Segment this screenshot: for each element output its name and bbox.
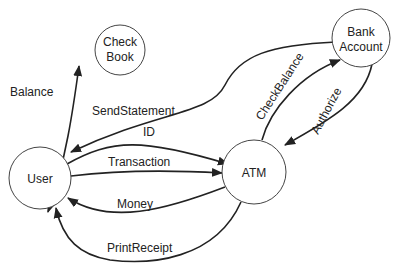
label-printreceipt: PrintReceipt [107, 241, 173, 255]
edge-transaction [71, 171, 222, 176]
node-user: User [9, 147, 71, 209]
node-user-label: User [27, 172, 52, 186]
node-bank-line1: Bank [347, 25, 375, 39]
label-money: Money [117, 197, 153, 211]
node-checkbook: Check Book [95, 25, 145, 75]
node-atm-label: ATM [242, 166, 266, 180]
label-balance: Balance [10, 85, 54, 99]
label-id: ID [143, 125, 155, 139]
label-sendstatement: SendStatement [92, 104, 175, 118]
node-bank-line2: Account [339, 40, 383, 54]
label-checkbalance: CheckBalance [253, 50, 307, 123]
node-atm: ATM [222, 140, 286, 204]
label-transaction: Transaction [108, 155, 170, 169]
node-checkbook-line1: Check [103, 35, 138, 49]
node-checkbook-line2: Book [106, 50, 134, 64]
node-bank-account: Bank Account [332, 9, 390, 67]
data-flow-diagram: Balance SendStatement ID Transaction Mon… [0, 0, 410, 274]
